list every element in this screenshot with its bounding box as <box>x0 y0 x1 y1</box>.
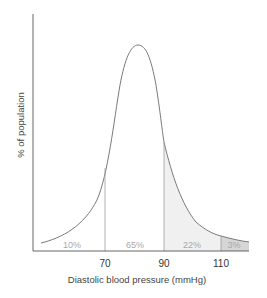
distribution-curve <box>41 45 249 243</box>
region-label-3: 3% <box>227 240 240 250</box>
x-axis-label: Diastolic blood pressure (mmHg) <box>68 274 206 285</box>
region-label-22: 22% <box>183 240 201 250</box>
region-90-110-shade <box>164 142 221 251</box>
x-tick-70: 70 <box>99 258 111 269</box>
region-label-10: 10% <box>63 240 81 250</box>
x-tick-110: 110 <box>213 258 229 269</box>
x-tick-90: 90 <box>158 258 170 269</box>
y-axis-label: % of population <box>15 92 26 158</box>
bell-curve-chart: 10% 65% 22% 3% 70 90 110 Diastolic blood… <box>0 0 267 298</box>
region-label-65: 65% <box>126 240 144 250</box>
